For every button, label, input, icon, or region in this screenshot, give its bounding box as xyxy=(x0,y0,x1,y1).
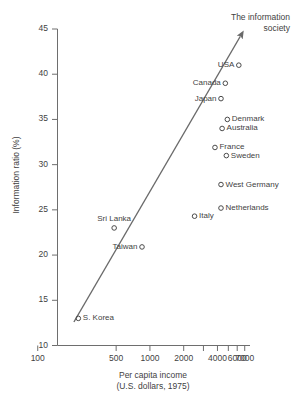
data-point-marker xyxy=(224,153,229,158)
data-point-label: Sweden xyxy=(231,152,260,160)
x-tick-label: 100 xyxy=(13,354,63,363)
y-tick-label: 15 xyxy=(26,295,48,304)
data-point-label: Australia xyxy=(227,124,258,132)
x-axis-title-sub: (U.S. dollars, 1975) xyxy=(78,381,228,392)
x-tick-label: 7000 xyxy=(220,354,270,363)
information-society-annotation: The information society xyxy=(190,12,290,34)
data-point-label: Sri Lanka xyxy=(97,215,131,223)
data-point-label: Netherlands xyxy=(225,204,268,212)
data-point-marker xyxy=(192,214,197,219)
annotation-line-2: society xyxy=(190,23,290,34)
data-point-marker xyxy=(219,206,224,211)
y-tick-label: 45 xyxy=(26,24,48,33)
data-point-marker xyxy=(223,81,228,86)
y-axis-title: Information ratio (%) xyxy=(11,115,21,235)
y-tick-label: 20 xyxy=(26,250,48,259)
data-point-label: Taiwan xyxy=(113,243,138,251)
y-tick-label: 40 xyxy=(26,69,48,78)
y-tick-marks xyxy=(52,29,58,346)
data-point-label: Denmark xyxy=(232,115,264,123)
data-point-label: Canada xyxy=(193,79,221,87)
data-point-marker xyxy=(213,145,218,150)
data-point-marker xyxy=(140,245,145,250)
data-point-label: Japan xyxy=(195,95,217,103)
data-point-label: USA xyxy=(218,61,234,69)
annotation-line-1: The information xyxy=(190,12,290,23)
data-point-marker xyxy=(219,96,224,101)
x-tick-marks xyxy=(38,346,245,352)
data-point-marker xyxy=(220,126,225,131)
data-point-marker xyxy=(112,226,117,231)
y-tick-label: 30 xyxy=(26,160,48,169)
data-point-label: West Germany xyxy=(225,181,278,189)
data-point-marker xyxy=(237,63,242,68)
x-axis-title: Per capita income (U.S. dollars, 1975) xyxy=(78,370,228,391)
data-point-label: Italy xyxy=(199,212,214,220)
data-point-marker xyxy=(225,117,230,122)
y-tick-label: 10 xyxy=(26,341,48,350)
x-axis-title-main: Per capita income xyxy=(78,370,228,381)
y-tick-label: 25 xyxy=(26,205,48,214)
data-point-label: S. Korea xyxy=(83,314,114,322)
scatter-chart: USACanadaJapanDenmarkAustraliaFranceSwed… xyxy=(0,0,296,412)
data-point-marker xyxy=(219,182,224,187)
y-tick-label: 35 xyxy=(26,114,48,123)
